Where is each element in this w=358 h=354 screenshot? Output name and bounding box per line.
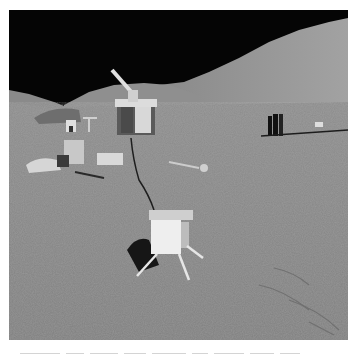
lunar-photo bbox=[9, 10, 348, 340]
caption-strip bbox=[20, 344, 340, 352]
